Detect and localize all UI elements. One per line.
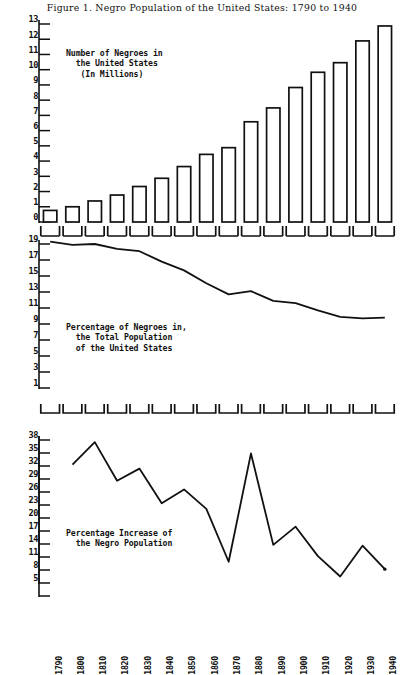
increase-axis-tick-label: 38 — [28, 430, 38, 440]
x-axis-year-label: 1790 — [54, 656, 64, 675]
x-axis-year-label: 1910 — [321, 656, 331, 675]
increase-axis-tick-label: 23 — [28, 495, 38, 505]
increase-axis-tick-label: 11 — [28, 547, 38, 557]
x-axis-year-label: 1890 — [277, 656, 287, 675]
share-axis-tick-label: 3 — [33, 362, 38, 372]
bars-axis-tick-label: 6 — [33, 121, 38, 131]
bar — [222, 148, 235, 222]
x-axis-year-label: 1930 — [366, 656, 376, 675]
figure-title: Figure 1. Negro Population of the United… — [0, 2, 404, 13]
bar — [133, 187, 146, 222]
bar — [311, 72, 324, 222]
bars-axis-tick-label: 0 — [33, 212, 38, 222]
bar — [267, 108, 280, 222]
x-axis-bracket-tick — [286, 404, 305, 413]
share-chart-svg: 191715131197531 — [0, 230, 404, 402]
share-line-series — [50, 242, 385, 319]
bar — [378, 26, 391, 222]
bars-axis-tick-label: 8 — [33, 91, 38, 101]
mid-tick-rail — [0, 400, 404, 420]
increase-axis-tick-label: 5 — [33, 573, 38, 583]
x-axis-bracket-tick — [242, 404, 261, 413]
bar-chart-panel: 131211109876543210 — [0, 14, 404, 239]
x-axis-year-label: 1900 — [299, 656, 309, 675]
mid-tick-rail-svg — [0, 400, 404, 420]
x-axis-bracket-tick — [264, 404, 283, 413]
x-axis-bracket-tick — [197, 404, 216, 413]
x-axis-year-label: 1870 — [232, 656, 242, 675]
share-axis-tick-label: 9 — [33, 314, 38, 324]
x-axis-year-label: 1850 — [187, 656, 197, 675]
share-axis-tick-label: 17 — [28, 250, 38, 260]
increase-axis-tick-label: 14 — [28, 534, 38, 544]
bar — [334, 63, 347, 222]
increase-axis-tick-label: 8 — [33, 560, 38, 570]
x-axis-bracket-tick — [41, 404, 60, 413]
increase-axis-tick-label: 29 — [28, 469, 38, 479]
bar — [356, 41, 369, 222]
increase-chart-svg: 3835322926232017141185 — [0, 426, 404, 608]
increase-axis-tick-label: 32 — [28, 456, 38, 466]
increase-chart-panel: 3835322926232017141185 — [0, 426, 404, 608]
x-axis-year-label: 1860 — [210, 656, 220, 675]
share-axis-tick-label: 11 — [28, 298, 38, 308]
x-axis-year-label: 1920 — [344, 656, 354, 675]
increase-line-series — [72, 442, 384, 576]
x-axis-year-label: 1820 — [120, 656, 130, 675]
x-axis-bracket-tick — [152, 404, 171, 413]
share-axis-tick-label: 1 — [33, 378, 38, 388]
x-axis-year-label: 1810 — [98, 656, 108, 675]
bars-axis-tick-label: 12 — [28, 30, 38, 40]
increase-chart-caption: Percentage Increase of the Negro Populat… — [66, 528, 172, 549]
x-axis-bracket-tick — [219, 404, 238, 413]
bars-axis-tick-label: 10 — [28, 60, 38, 70]
share-axis-tick-label: 7 — [33, 330, 38, 340]
increase-line-endpoint — [383, 567, 386, 570]
x-axis-bracket-tick — [375, 404, 394, 413]
x-axis-year-label: 1800 — [76, 656, 86, 675]
bar — [200, 154, 213, 222]
bars-axis-tick-label: 11 — [28, 45, 38, 55]
bars-axis-tick-label: 7 — [33, 106, 38, 116]
x-axis-year-label: 1830 — [143, 656, 153, 675]
x-axis-bracket-tick — [108, 404, 127, 413]
bars-axis-tick-label: 5 — [33, 136, 38, 146]
x-axis-bracket-tick — [331, 404, 350, 413]
x-axis-bracket-tick — [309, 404, 328, 413]
bars-axis-tick-label: 1 — [33, 197, 38, 207]
share-chart-panel: 191715131197531 — [0, 230, 404, 402]
share-axis-tick-label: 13 — [28, 282, 38, 292]
increase-axis-tick-label: 17 — [28, 521, 38, 531]
bar — [66, 207, 79, 222]
share-axis-tick-label: 5 — [33, 346, 38, 356]
share-axis-tick-label: 15 — [28, 266, 38, 276]
bars-axis-tick-label: 3 — [33, 167, 38, 177]
x-axis-bracket-tick — [85, 404, 104, 413]
x-axis-year-labels: 1790180018101820183018401850186018701880… — [0, 606, 404, 664]
share-axis-tick-label: 19 — [28, 234, 38, 244]
bar — [244, 122, 257, 222]
increase-axis-tick-label: 20 — [28, 508, 38, 518]
bar — [289, 88, 302, 222]
increase-axis-tick-label: 26 — [28, 482, 38, 492]
bars-axis-tick-label: 4 — [33, 151, 38, 161]
x-axis-year-label: 1940 — [388, 656, 398, 675]
bars-axis-tick-label: 2 — [33, 182, 38, 192]
x-axis-bracket-tick — [175, 404, 194, 413]
x-axis-bracket-tick — [130, 404, 149, 413]
x-axis-year-label: 1840 — [165, 656, 175, 675]
x-axis-year-label: 1880 — [254, 656, 264, 675]
bar-chart-caption: Number of Negroes in the United States (… — [66, 48, 163, 79]
bar — [110, 195, 123, 222]
bar — [43, 210, 56, 222]
share-chart-caption: Percentage of Negroes in, the Total Popu… — [66, 322, 187, 353]
bar — [155, 178, 168, 222]
bar-chart-svg: 131211109876543210 — [0, 14, 404, 239]
bar — [177, 167, 190, 222]
x-axis-bracket-tick — [63, 404, 82, 413]
bars-axis-tick-label: 9 — [33, 75, 38, 85]
bars-axis-tick-label: 13 — [28, 14, 38, 24]
x-axis-bracket-tick — [353, 404, 372, 413]
increase-axis-tick-label: 35 — [28, 443, 38, 453]
